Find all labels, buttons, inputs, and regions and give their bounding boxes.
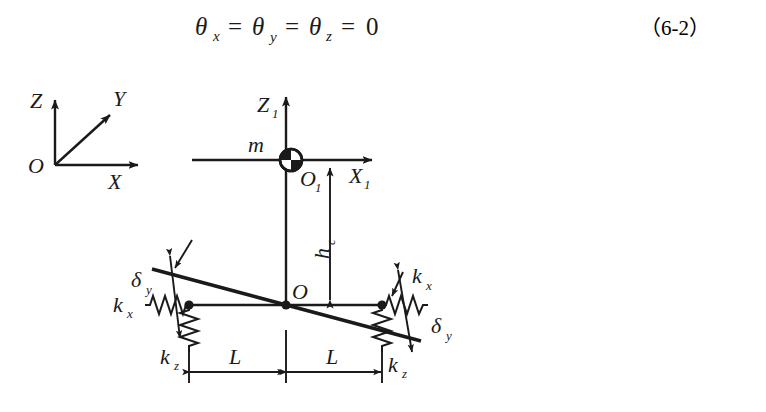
zero-value: 0 bbox=[366, 13, 379, 40]
global-y-label: Y bbox=[113, 86, 128, 111]
global-coordinate-frame: Z Y X O bbox=[28, 86, 138, 194]
left-kx-subscript: x bbox=[126, 306, 133, 321]
right-kz-label: k bbox=[388, 352, 399, 377]
right-deflection-indicator: δ y bbox=[392, 270, 452, 352]
right-kz-subscript: z bbox=[401, 366, 407, 381]
theta-x-subscript: x bbox=[212, 28, 220, 44]
equals-2: = bbox=[285, 13, 299, 40]
theta-y-subscript: y bbox=[268, 29, 277, 45]
global-origin-label: O bbox=[28, 153, 44, 178]
body-x-subscript: 1 bbox=[364, 177, 371, 192]
center-of-mass-icon bbox=[280, 149, 302, 171]
mass-label: m bbox=[248, 132, 264, 157]
body-origin-label: O bbox=[300, 166, 316, 191]
left-kx-label: k bbox=[113, 292, 124, 317]
body-x-label: X bbox=[348, 163, 364, 188]
height-subscript: c bbox=[323, 239, 338, 245]
right-length-label: L bbox=[325, 344, 338, 369]
body-z-label: Z bbox=[257, 92, 270, 117]
equation-line: θ x = θ y = θ z = 0 （6-2） bbox=[195, 13, 710, 45]
height-label: h bbox=[309, 248, 334, 259]
left-load-arrow bbox=[175, 240, 192, 268]
global-z-label: Z bbox=[30, 88, 43, 113]
left-length-label: L bbox=[228, 344, 241, 369]
right-kx-label: k bbox=[412, 263, 423, 288]
left-delta-subscript: y bbox=[144, 282, 152, 297]
right-delta-subscript: y bbox=[444, 328, 452, 343]
theta-z-symbol: θ bbox=[309, 13, 321, 40]
left-deflection-arrow bbox=[170, 256, 180, 338]
mechanical-system-diagram: θ x = θ y = θ z = 0 （6-2） Z Y X O Z 1 X … bbox=[0, 0, 766, 412]
theta-x-symbol: θ bbox=[195, 13, 207, 40]
right-deflection-arrow bbox=[398, 270, 412, 352]
equals-3: = bbox=[341, 13, 355, 40]
theta-y-symbol: θ bbox=[252, 13, 264, 40]
body-origin-subscript: 1 bbox=[315, 180, 322, 195]
body-z-subscript: 1 bbox=[272, 106, 279, 121]
left-delta-label: δ bbox=[131, 267, 142, 292]
length-dimensions: L L bbox=[189, 330, 382, 383]
body-frame: Z 1 X 1 O 1 m bbox=[192, 92, 372, 305]
equals-1: = bbox=[228, 13, 242, 40]
left-kz-subscript: z bbox=[173, 358, 179, 373]
left-vertical-spring bbox=[180, 305, 198, 352]
theta-z-subscript: z bbox=[325, 28, 332, 44]
left-spring-assembly: k x k z bbox=[113, 292, 198, 373]
global-x-label: X bbox=[107, 169, 123, 194]
platform-origin-label: O bbox=[292, 279, 308, 304]
equation-number: （6-2） bbox=[640, 16, 710, 40]
right-delta-label: δ bbox=[431, 313, 442, 338]
left-kz-label: k bbox=[160, 344, 171, 369]
right-kx-subscript: x bbox=[425, 278, 432, 293]
global-y-axis bbox=[55, 115, 110, 165]
